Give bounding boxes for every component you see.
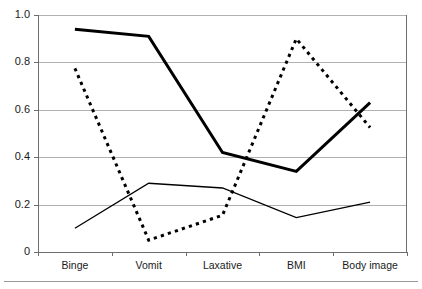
y-tick-label: 1.0 (15, 8, 30, 20)
line-chart: 00.20.40.60.81.0 BingeVomitLaxativeBMIBo… (0, 0, 422, 289)
y-tick-labels: 00.20.40.60.81.0 (15, 8, 30, 257)
x-tick-label: BMI (287, 259, 306, 271)
y-tick-label: 0 (24, 245, 30, 257)
x-tick-label: Vomit (136, 259, 162, 271)
chart-figure: 00.20.40.60.81.0 BingeVomitLaxativeBMIBo… (0, 0, 422, 289)
y-tick-label: 0.6 (15, 103, 30, 115)
y-tick-label: 0.8 (15, 55, 30, 67)
x-tick-label: Body image (342, 259, 398, 271)
y-tick-label: 0.4 (15, 150, 30, 162)
x-tick-label: Binge (61, 259, 88, 271)
y-tick-label: 0.2 (15, 198, 30, 210)
y-tickmarks (34, 16, 38, 253)
x-tick-labels: BingeVomitLaxativeBMIBody image (61, 259, 398, 271)
x-tick-label: Laxative (203, 259, 242, 271)
